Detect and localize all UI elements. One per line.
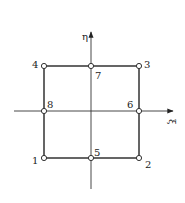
element-boundary	[44, 66, 139, 158]
node-6-marker	[136, 108, 141, 113]
nodes-layer	[41, 63, 141, 160]
node-5-label: 5	[94, 147, 100, 158]
node-3-label: 3	[144, 59, 150, 70]
node-8-marker	[41, 108, 46, 113]
node-2-label: 2	[145, 159, 151, 170]
node-2-marker	[136, 155, 141, 160]
node-1-label: 1	[32, 155, 38, 166]
node-8-label: 8	[47, 99, 53, 110]
node-1-marker	[41, 155, 46, 160]
node-5-marker	[88, 155, 93, 160]
node-4-label: 4	[32, 59, 38, 70]
node-4-marker	[41, 63, 46, 68]
node-7-marker	[88, 63, 93, 68]
node-labels-layer: 12345678	[32, 59, 151, 170]
xi-axis-label: ξ	[167, 119, 178, 125]
node-3-marker	[136, 63, 141, 68]
node-6-label: 6	[127, 99, 133, 110]
node-7-label: 7	[95, 70, 101, 81]
eta-axis-label: η	[82, 31, 88, 42]
element-diagram: η ξ 12345678	[0, 0, 185, 203]
